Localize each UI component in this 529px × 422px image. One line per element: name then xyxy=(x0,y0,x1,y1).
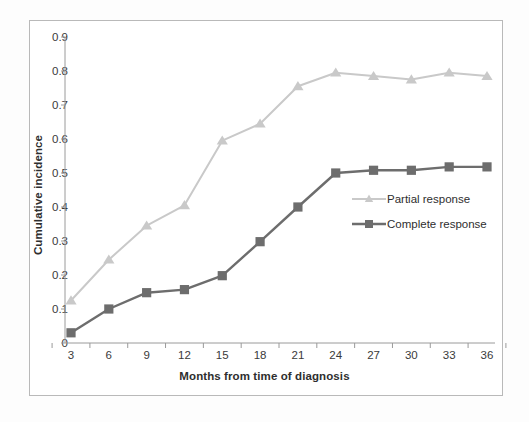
x-axis-tick-label: 30 xyxy=(396,349,426,361)
y-axis-tick-label: 0.5 xyxy=(40,167,68,179)
chart-legend: Partial response Complete response xyxy=(352,186,502,236)
x-axis-tick-label: 24 xyxy=(321,349,351,361)
x-axis-tick-label: 9 xyxy=(132,349,162,361)
y-axis-tick-label: 0.2 xyxy=(40,269,68,281)
y-axis-tick-label: 0.6 xyxy=(40,133,68,145)
x-axis-tick-label: 36 xyxy=(472,349,502,361)
figure-container: Cumulative incidence 0.90.80.70.60.50.40… xyxy=(0,0,529,422)
legend-label-partial-response: Partial response xyxy=(387,193,470,205)
x-axis-tick-label: 27 xyxy=(359,349,389,361)
legend-marker-partial-response xyxy=(352,192,386,206)
x-axis-tick-label: 21 xyxy=(283,349,313,361)
x-axis-tick-label: 18 xyxy=(245,349,275,361)
y-axis-tick-label: 0.9 xyxy=(40,31,68,43)
legend-item-partial-response: Partial response xyxy=(352,186,502,211)
x-axis-tick-label: 15 xyxy=(207,349,237,361)
y-axis-tick-label: 0.4 xyxy=(40,201,68,213)
legend-marker-complete-response xyxy=(352,217,386,231)
legend-label-complete-response: Complete response xyxy=(387,218,487,230)
y-axis-tick-label: 0 xyxy=(40,337,68,349)
y-axis-tick-label: 0.8 xyxy=(40,65,68,77)
y-axis-tick-label: 0.7 xyxy=(40,99,68,111)
x-axis-tick-label: 12 xyxy=(169,349,199,361)
x-axis-tick-label: 33 xyxy=(434,349,464,361)
legend-item-complete-response: Complete response xyxy=(352,211,502,236)
x-axis-tick-label: 3 xyxy=(56,349,86,361)
x-axis-title: Months from time of diagnosis xyxy=(0,370,529,382)
y-axis-tick-label: 0.1 xyxy=(40,303,68,315)
y-axis-tick-label: 0.3 xyxy=(40,235,68,247)
x-axis-tick-label: 6 xyxy=(94,349,124,361)
